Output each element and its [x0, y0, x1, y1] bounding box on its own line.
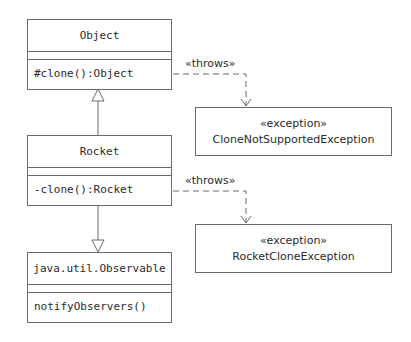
exception-name: RocketCloneException — [196, 248, 391, 265]
operation: notifyObservers() — [28, 293, 171, 321]
class-rocket[interactable]: Rocket -clone():Rocket — [27, 135, 172, 206]
class-name: java.util.Observable — [28, 253, 171, 285]
exception-rocket-clone[interactable]: «exception» RocketCloneException — [195, 224, 392, 273]
attributes-compartment — [28, 285, 171, 293]
throws-label: «throws» — [185, 174, 235, 187]
operation: #clone():Object — [28, 60, 171, 88]
class-observable[interactable]: java.util.Observable notifyObservers() — [27, 252, 172, 323]
exception-name: CloneNotSupportedException — [196, 131, 391, 148]
generalization-triangle-icon — [92, 240, 104, 252]
attributes-compartment — [28, 52, 171, 60]
class-object[interactable]: Object #clone():Object — [27, 19, 172, 90]
operation: -clone():Rocket — [28, 176, 171, 204]
stereotype-label: «exception» — [196, 233, 391, 248]
uml-class-diagram: Object #clone():Object Rocket -clone():R… — [0, 0, 411, 342]
stereotype-label: «exception» — [196, 116, 391, 131]
class-name: Object — [28, 20, 171, 52]
attributes-compartment — [28, 168, 171, 176]
throws-label: «throws» — [185, 57, 235, 70]
exception-clone-not-supported[interactable]: «exception» CloneNotSupportedException — [195, 107, 392, 156]
generalization-triangle-icon — [92, 89, 104, 101]
class-name: Rocket — [28, 136, 171, 168]
